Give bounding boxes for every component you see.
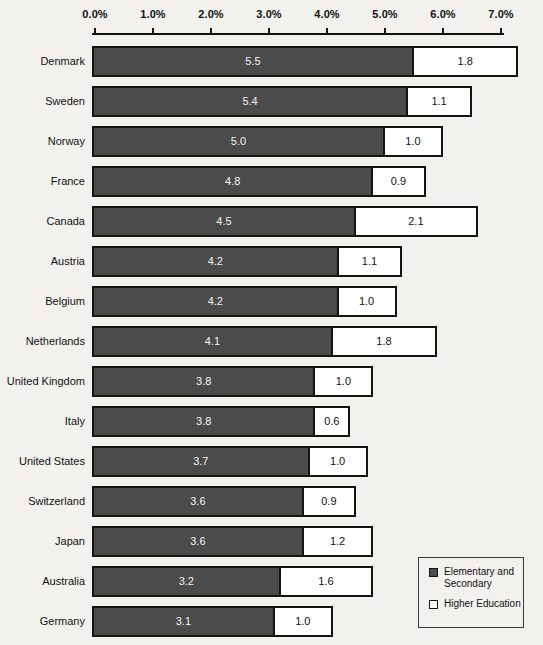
bar-value-label: 1.1 (362, 256, 377, 267)
category-label: Norway (0, 126, 85, 157)
bar-segment-higher-education: 1.6 (279, 566, 374, 597)
bar-segment-higher-education: 1.0 (337, 286, 397, 317)
bar-value-label: 3.7 (193, 456, 208, 467)
chart-row: Norway5.01.0 (0, 126, 543, 157)
bar-value-label: 0.9 (321, 496, 336, 507)
bar-value-label: 4.2 (208, 256, 223, 267)
bar-segment-elementary-secondary: 3.8 (92, 366, 315, 397)
legend-label: Elementary and Secondary (444, 566, 522, 589)
bar-segment-elementary-secondary: 3.6 (92, 486, 304, 517)
category-label: United States (0, 446, 85, 477)
bar-value-label: 5.5 (245, 56, 260, 67)
bar-value-label: 1.0 (330, 456, 345, 467)
bar-segment-higher-education: 0.6 (313, 406, 350, 437)
bar-value-label: 3.8 (196, 376, 211, 387)
bar-value-label: 3.6 (190, 496, 205, 507)
bar-value-label: 3.8 (196, 416, 211, 427)
bar-segment-higher-education: 1.0 (273, 606, 333, 637)
stacked-bar: 5.41.1 (92, 86, 472, 117)
stacked-bar-chart: 0.0%1.0%2.0%3.0%4.0%5.0%6.0%7.0% Denmark… (0, 0, 543, 645)
legend-swatch-hollow-icon (429, 600, 438, 609)
bar-value-label: 4.1 (205, 336, 220, 347)
stacked-bar: 4.80.9 (92, 166, 426, 197)
bar-segment-elementary-secondary: 3.7 (92, 446, 310, 477)
bar-segment-higher-education: 1.1 (337, 246, 403, 277)
chart-row: France4.80.9 (0, 166, 543, 197)
category-label: Germany (0, 606, 85, 637)
chart-row: Japan3.61.2 (0, 526, 543, 557)
legend-item: Higher Education (429, 598, 523, 610)
bar-value-label: 1.0 (405, 136, 420, 147)
category-label: Canada (0, 206, 85, 237)
legend-label: Higher Education (444, 598, 521, 610)
stacked-bar: 3.11.0 (92, 606, 333, 637)
stacked-bar: 4.21.0 (92, 286, 397, 317)
stacked-bar: 3.80.6 (92, 406, 350, 437)
bar-segment-higher-education: 1.0 (383, 126, 443, 157)
bar-value-label: 2.1 (408, 216, 423, 227)
category-label: Denmark (0, 46, 85, 77)
bar-value-label: 3.2 (179, 576, 194, 587)
bar-segment-higher-education: 1.1 (406, 86, 472, 117)
category-label: Japan (0, 526, 85, 557)
bar-segment-elementary-secondary: 5.0 (92, 126, 385, 157)
category-label: Sweden (0, 86, 85, 117)
bar-value-label: 1.8 (458, 56, 473, 67)
category-label: Belgium (0, 286, 85, 317)
bar-segment-higher-education: 0.9 (302, 486, 356, 517)
bar-segment-elementary-secondary: 5.5 (92, 46, 414, 77)
bar-segment-elementary-secondary: 3.1 (92, 606, 275, 637)
chart-row: Italy3.80.6 (0, 406, 543, 437)
category-label: Austria (0, 246, 85, 277)
bar-value-label: 1.8 (376, 336, 391, 347)
category-label: United Kingdom (0, 366, 85, 397)
bar-value-label: 1.0 (359, 296, 374, 307)
category-label: France (0, 166, 85, 197)
chart-row: Netherlands4.11.8 (0, 326, 543, 357)
bar-value-label: 0.9 (391, 176, 406, 187)
stacked-bar: 4.11.8 (92, 326, 437, 357)
chart-row: Austria4.21.1 (0, 246, 543, 277)
bar-segment-elementary-secondary: 5.4 (92, 86, 408, 117)
bar-value-label: 4.8 (225, 176, 240, 187)
bar-segment-elementary-secondary: 4.1 (92, 326, 333, 357)
bar-value-label: 3.6 (190, 536, 205, 547)
bar-segment-elementary-secondary: 4.5 (92, 206, 356, 237)
bar-segment-higher-education: 1.0 (313, 366, 373, 397)
bar-segment-higher-education: 1.8 (331, 326, 437, 357)
bar-segment-elementary-secondary: 4.8 (92, 166, 373, 197)
category-label: Switzerland (0, 486, 85, 517)
chart-plot-area: Denmark5.51.8Sweden5.41.1Norway5.01.0Fra… (0, 0, 543, 645)
bar-segment-elementary-secondary: 4.2 (92, 246, 339, 277)
chart-row: Belgium4.21.0 (0, 286, 543, 317)
stacked-bar: 4.21.1 (92, 246, 402, 277)
bar-segment-higher-education: 1.8 (412, 46, 518, 77)
legend-swatch-filled-icon (429, 568, 438, 577)
bar-value-label: 4.5 (216, 216, 231, 227)
bar-segment-elementary-secondary: 3.6 (92, 526, 304, 557)
bar-segment-higher-education: 2.1 (354, 206, 478, 237)
stacked-bar: 3.60.9 (92, 486, 356, 517)
chart-row: Sweden5.41.1 (0, 86, 543, 117)
chart-legend: Elementary and SecondaryHigher Education (418, 557, 524, 628)
legend-item: Elementary and Secondary (429, 566, 523, 589)
bar-value-label: 1.0 (336, 376, 351, 387)
bar-value-label: 3.1 (176, 616, 191, 627)
stacked-bar: 3.21.6 (92, 566, 373, 597)
chart-row: United Kingdom3.81.0 (0, 366, 543, 397)
bar-segment-higher-education: 1.0 (308, 446, 368, 477)
bar-segment-elementary-secondary: 3.2 (92, 566, 281, 597)
bar-value-label: 1.0 (295, 616, 310, 627)
bar-segment-higher-education: 1.2 (302, 526, 374, 557)
bar-value-label: 1.6 (318, 576, 333, 587)
category-label: Netherlands (0, 326, 85, 357)
bar-segment-higher-education: 0.9 (371, 166, 425, 197)
category-label: Italy (0, 406, 85, 437)
category-label: Australia (0, 566, 85, 597)
stacked-bar: 4.52.1 (92, 206, 478, 237)
chart-row: United States3.71.0 (0, 446, 543, 477)
bar-value-label: 4.2 (208, 296, 223, 307)
bar-value-label: 5.0 (231, 136, 246, 147)
bar-value-label: 1.2 (330, 536, 345, 547)
bar-value-label: 1.1 (431, 96, 446, 107)
